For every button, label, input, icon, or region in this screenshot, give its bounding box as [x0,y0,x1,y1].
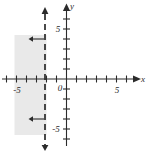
graph-figure: x y 0 -5 5 5 -5 [0,0,147,151]
boundary-line-arrow-bottom [42,145,49,151]
x-axis-arrowhead [133,75,141,82]
coordinate-plane-svg: x y 0 -5 5 5 -5 [0,0,147,151]
y-axis-label: y [69,1,74,11]
y-tick-label-neg5: -5 [52,124,60,134]
y-tick-label-pos5: 5 [56,24,61,34]
x-tick-label-neg5: -5 [13,85,21,95]
x-axis-label: x [140,74,145,84]
origin-label: 0 [58,83,63,93]
x-tick-label-pos5: 5 [115,85,120,95]
boundary-line-arrow-top [42,7,49,14]
